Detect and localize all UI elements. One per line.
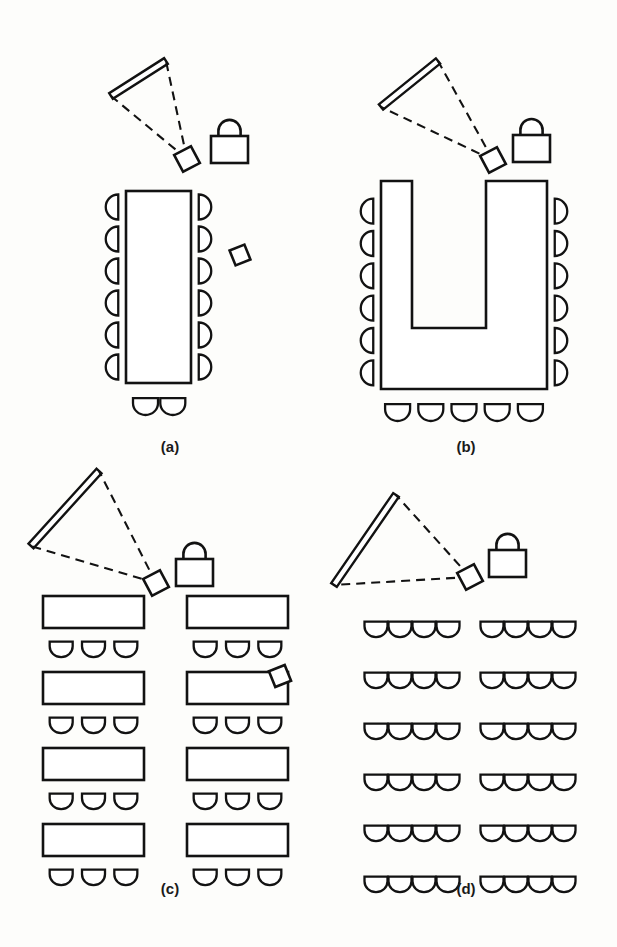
chair-icon (413, 622, 436, 638)
chair-icon (437, 775, 460, 791)
projection-screen-icon (379, 58, 440, 109)
chair-icon (365, 826, 388, 842)
chair-icon (389, 775, 412, 791)
chair-icon (389, 877, 412, 893)
chair-icon (226, 718, 249, 734)
chair-icon (194, 718, 217, 734)
chair-icon (437, 673, 460, 689)
chair-icon (437, 724, 460, 740)
chair-icon (365, 622, 388, 638)
chair-icon (258, 870, 281, 886)
chair-icon (82, 870, 105, 886)
table-shape (187, 748, 288, 780)
chair-icon (529, 673, 552, 689)
table-shape (43, 824, 144, 856)
chair-icon (505, 724, 528, 740)
projector-icon (457, 564, 483, 590)
chair-icon (106, 323, 119, 348)
table-shape (187, 824, 288, 856)
chair-icon (82, 718, 105, 734)
chair-icon (199, 355, 212, 380)
chair-icon (481, 724, 504, 740)
chair-icon (553, 826, 576, 842)
chair-icon (114, 794, 137, 810)
chair-icon (553, 673, 576, 689)
chair-icon (114, 870, 137, 886)
chair-icon (258, 718, 281, 734)
chair-icon (389, 673, 412, 689)
chair-icon (106, 355, 119, 380)
chair-icon (481, 673, 504, 689)
table-shape (43, 748, 144, 780)
chair-icon (529, 775, 552, 791)
chair-icon (505, 622, 528, 638)
chair-icon (481, 826, 504, 842)
chair-icon (553, 877, 576, 893)
table-shape (43, 596, 144, 628)
chair-icon (361, 231, 374, 256)
projector-icon (143, 570, 169, 596)
chair-icon (106, 195, 119, 220)
panel-a (106, 58, 251, 415)
chair-icon (413, 826, 436, 842)
projection-beam-line (111, 96, 187, 159)
projection-screen-icon (331, 493, 399, 587)
chair-icon (50, 642, 73, 658)
chair-icon (199, 291, 212, 316)
chair-icon (361, 199, 374, 224)
chair-icon (437, 622, 460, 638)
projection-screen-icon (28, 469, 101, 549)
chair-icon (199, 259, 212, 284)
chair-icon (365, 877, 388, 893)
chair-icon (365, 724, 388, 740)
chair-icon (50, 718, 73, 734)
chair-icon (199, 226, 212, 251)
chair-icon (106, 291, 119, 316)
chair-icon (555, 328, 567, 353)
chair-icon (529, 877, 552, 893)
chair-icon (413, 775, 436, 791)
chair-icon (505, 775, 528, 791)
panel-caption-d: (d) (456, 880, 475, 897)
chair-icon (555, 296, 567, 321)
chair-icon (413, 724, 436, 740)
chair-icon (361, 328, 374, 353)
chair-icon (553, 775, 576, 791)
table-shape (43, 672, 144, 704)
chair-icon (505, 673, 528, 689)
chair-icon (555, 263, 567, 288)
chair-icon (114, 642, 137, 658)
chair-icon (437, 826, 460, 842)
chair-icon (529, 622, 552, 638)
chair-icon (505, 877, 528, 893)
panel-caption-b: (b) (456, 438, 475, 455)
chair-icon (505, 826, 528, 842)
projection-beam-line (31, 546, 156, 583)
chair-icon (361, 360, 373, 385)
chair-icon (529, 826, 552, 842)
chair-icon (199, 195, 212, 220)
chair-icon (413, 877, 436, 893)
lectern-arch-icon (496, 534, 518, 550)
lectern-icon (176, 559, 213, 586)
seating-arrangement-figure: (a)(b)(c)(d) (0, 0, 617, 947)
chair-icon (555, 231, 567, 256)
chair-icon (226, 642, 249, 658)
chair-icon (553, 724, 576, 740)
chair-icon (82, 794, 105, 810)
chair-icon (361, 296, 374, 321)
chair-icon (258, 794, 281, 810)
chair-icon (553, 622, 576, 638)
chair-icon (389, 724, 412, 740)
chair-icon (194, 870, 217, 886)
chair-icon (226, 870, 249, 886)
table-shape (126, 191, 191, 383)
chair-icon (481, 622, 504, 638)
chair-icon (389, 826, 412, 842)
chair-icon (452, 404, 477, 421)
chair-icon (160, 398, 185, 415)
chair-icon (114, 718, 137, 734)
projector-icon (174, 146, 200, 172)
chair-icon (389, 622, 412, 638)
chair-icon (258, 642, 281, 658)
